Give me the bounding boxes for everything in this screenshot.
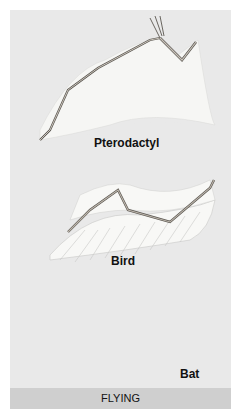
wing-illustrations bbox=[10, 10, 231, 409]
category-band: FLYING bbox=[10, 388, 231, 409]
category-label: FLYING bbox=[10, 392, 231, 404]
flying-homology-figure: Pterodactyl Bird Bat FLYING bbox=[10, 10, 231, 409]
bird-label: Bird bbox=[111, 254, 135, 268]
bat-label: Bat bbox=[180, 367, 199, 381]
pterodactyl-label: Pterodactyl bbox=[94, 136, 159, 150]
